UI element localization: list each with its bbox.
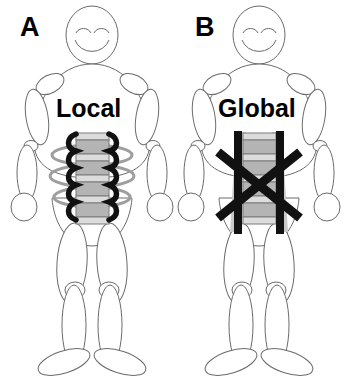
forearm-right [314, 145, 334, 201]
spine-base-cap [78, 190, 107, 202]
panel-b-letter: B [195, 14, 215, 41]
panel-a-letter: A [20, 14, 40, 41]
disc-0 [76, 133, 109, 140]
panel-a-local: A Local [0, 0, 175, 386]
vertebra-4 [76, 203, 109, 217]
head [66, 6, 118, 64]
panel-b-region-label: Global [218, 96, 296, 121]
disc-2 [76, 175, 109, 182]
lumbar-spine-local [76, 133, 109, 224]
hand-right [147, 193, 173, 221]
figure-root: A Local [0, 0, 349, 386]
disc-1 [243, 154, 276, 161]
hand-left [11, 193, 37, 221]
disc-1 [76, 154, 109, 161]
vertebra-1 [243, 140, 276, 154]
disc-4 [76, 217, 109, 224]
head [233, 6, 285, 64]
disc-4 [243, 217, 276, 224]
panel-a-region-label: Local [56, 96, 121, 121]
forearm-right [147, 145, 167, 201]
stick-figure-local-svg [0, 0, 175, 386]
stick-figure-global-svg [174, 0, 349, 386]
hand-right [314, 193, 340, 221]
hand-left [178, 193, 204, 221]
disc-0 [243, 133, 276, 140]
vertebra-4 [243, 203, 276, 217]
forearm-left [184, 145, 204, 201]
forearm-left [17, 145, 37, 201]
panel-b-global: B Global [174, 0, 349, 386]
